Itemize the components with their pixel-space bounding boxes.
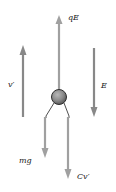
E-label: E bbox=[101, 82, 107, 90]
drop-connectors bbox=[46, 103, 69, 118]
v-prime-label: v′ bbox=[8, 81, 14, 89]
qE-label: qE bbox=[68, 14, 79, 22]
mg-label: mg bbox=[19, 157, 32, 165]
mg-arrow bbox=[42, 117, 49, 158]
Cv-prime-label: Cv′ bbox=[77, 173, 89, 181]
force-diagram bbox=[0, 0, 116, 192]
qE-arrow bbox=[56, 15, 63, 92]
v-prime-arrow bbox=[20, 45, 27, 117]
E-arrow bbox=[91, 48, 98, 117]
Cv-prime-arrow bbox=[65, 117, 72, 179]
oil-drop bbox=[52, 90, 67, 105]
